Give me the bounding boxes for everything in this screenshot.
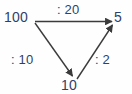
edge-label-divide-10: : 10 xyxy=(11,53,33,66)
division-chain-diagram: 100 5 10 : 20 : 10 : 2 xyxy=(0,0,132,94)
edge-label-divide-2: : 2 xyxy=(95,53,110,66)
node-5: 5 xyxy=(114,10,122,24)
edge-label-divide-20: : 20 xyxy=(57,3,79,16)
edge-100-to-10 xyxy=(35,23,73,76)
node-100: 100 xyxy=(4,10,28,24)
node-10: 10 xyxy=(61,78,77,92)
